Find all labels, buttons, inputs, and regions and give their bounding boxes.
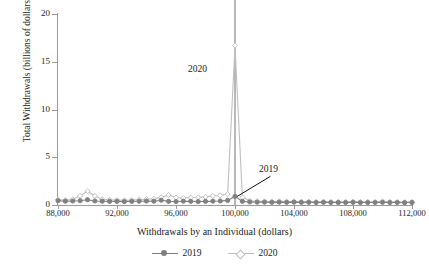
- data-point-2019: [351, 200, 355, 204]
- data-point-2019: [373, 200, 377, 204]
- data-point-2019: [181, 199, 185, 203]
- x-tick-label: 96,000: [164, 209, 187, 218]
- data-point-2019: [358, 200, 362, 204]
- data-point-2019: [108, 199, 112, 203]
- data-point-2019: [321, 200, 325, 204]
- data-point-2019: [152, 199, 156, 203]
- legend-label-2019: 2019: [183, 248, 202, 258]
- data-point-2019: [115, 199, 119, 203]
- data-point-2019: [159, 198, 163, 202]
- data-point-2020: [232, 43, 237, 48]
- series-canvas: [58, 14, 412, 205]
- data-point-2019: [410, 200, 414, 204]
- data-point-2020: [166, 192, 171, 197]
- annotation-2019: 2019: [259, 164, 278, 174]
- legend-item-2020[interactable]: 2020: [228, 248, 278, 258]
- data-point-2019: [403, 201, 407, 205]
- legend-marker-2019-icon: [152, 248, 178, 258]
- data-point-2019: [226, 198, 230, 202]
- data-point-2019: [233, 194, 237, 198]
- data-point-2019: [211, 199, 215, 203]
- annotation-2020: 2020: [188, 64, 207, 74]
- data-point-2019: [56, 199, 60, 203]
- x-tick-label: 88,000: [46, 209, 69, 218]
- data-point-2019: [240, 199, 244, 203]
- y-tick-label: 15: [0, 57, 59, 66]
- legend-item-2019[interactable]: 2019: [152, 248, 202, 258]
- data-point-2019: [255, 200, 259, 204]
- data-point-2019: [122, 199, 126, 203]
- data-point-2019: [174, 199, 178, 203]
- y-tick-label: 20: [0, 9, 59, 18]
- data-point-2019: [344, 200, 348, 204]
- y-axis-title: Total Withdrawals (billions of dollars): [22, 0, 33, 165]
- data-point-2019: [71, 199, 75, 203]
- data-point-2019: [380, 200, 384, 204]
- data-point-2019: [78, 199, 82, 203]
- data-point-2019: [144, 199, 148, 203]
- y-tick-label: 10: [0, 105, 59, 114]
- data-point-2019: [329, 200, 333, 204]
- data-point-2019: [299, 200, 303, 204]
- data-point-2020: [218, 193, 223, 198]
- data-point-2019: [137, 199, 141, 203]
- data-point-2020: [225, 191, 230, 196]
- data-point-2019: [277, 200, 281, 204]
- data-point-2019: [218, 199, 222, 203]
- data-point-2019: [262, 200, 266, 204]
- data-point-2019: [203, 199, 207, 203]
- x-axis-title: Withdrawals by an Individual (dollars): [0, 226, 429, 238]
- data-point-2019: [336, 200, 340, 204]
- data-point-2020: [210, 193, 215, 198]
- data-point-2019: [314, 200, 318, 204]
- data-point-2020: [203, 194, 208, 199]
- data-point-2019: [366, 200, 370, 204]
- data-point-2019: [196, 199, 200, 203]
- legend-marker-2020-icon: [228, 248, 254, 258]
- x-tick-label: 108,000: [339, 209, 367, 218]
- data-point-2019: [167, 199, 171, 203]
- plot-area: [58, 14, 412, 205]
- x-tick-label: 112,000: [398, 209, 425, 218]
- data-point-2019: [248, 200, 252, 204]
- chart-legend: 2019 2020: [0, 248, 429, 258]
- chart-figure: Total Withdrawals (billions of dollars) …: [0, 0, 429, 272]
- x-tick-label: 92,000: [105, 209, 128, 218]
- data-point-2019: [388, 200, 392, 204]
- data-point-2019: [100, 199, 104, 203]
- data-point-2019: [63, 199, 67, 203]
- x-tick-label: 100,000: [221, 209, 249, 218]
- y-tick-label: 5: [0, 152, 59, 161]
- data-point-2019: [189, 199, 193, 203]
- x-tick-label: 104,000: [280, 209, 308, 218]
- data-point-2019: [270, 200, 274, 204]
- data-point-2019: [130, 199, 134, 203]
- data-point-2019: [307, 200, 311, 204]
- data-point-2019: [93, 199, 97, 203]
- legend-label-2020: 2020: [259, 248, 278, 258]
- data-point-2019: [395, 200, 399, 204]
- data-point-2019: [285, 200, 289, 204]
- data-point-2019: [292, 200, 296, 204]
- data-point-2019: [85, 198, 89, 202]
